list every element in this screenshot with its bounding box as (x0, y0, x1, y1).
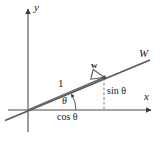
figure-canvas: y x W w 1 θ cos θ sin θ (0, 0, 165, 141)
vector-w-arrowhead (91, 70, 105, 80)
diagram-svg (0, 0, 165, 141)
angle-theta-label: θ (62, 96, 67, 106)
x-axis-label: x (144, 91, 149, 102)
line-w-label: W (139, 48, 148, 59)
angle-theta-arc (72, 94, 77, 110)
unit-length-label: 1 (58, 78, 64, 89)
vector-tip-point (102, 76, 106, 80)
sin-theta-label: sin θ (107, 86, 126, 96)
cos-theta-label: cos θ (57, 112, 78, 122)
y-axis-label: y (34, 2, 39, 13)
vector-w-label: w (91, 61, 98, 70)
